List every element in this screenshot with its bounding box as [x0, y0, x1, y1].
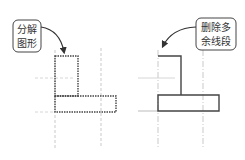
right-panel: 删除多 余线段 [138, 18, 236, 148]
left-panel: 分解 图形 [13, 20, 116, 148]
diagram-canvas: 分解 图形 删除多 余线段 [0, 0, 245, 160]
left-vertical-block [55, 56, 78, 96]
left-horizontal-block [55, 96, 116, 112]
right-callout-line1: 删除多 [201, 21, 231, 33]
right-callout-arrow-icon [163, 27, 196, 46]
left-callout-line1: 分解 [17, 23, 37, 35]
left-callout-line2: 图形 [17, 38, 37, 49]
right-l-shape [158, 56, 219, 111]
left-callout-arrow-icon [41, 27, 64, 52]
right-callout-line2: 余线段 [201, 35, 231, 47]
